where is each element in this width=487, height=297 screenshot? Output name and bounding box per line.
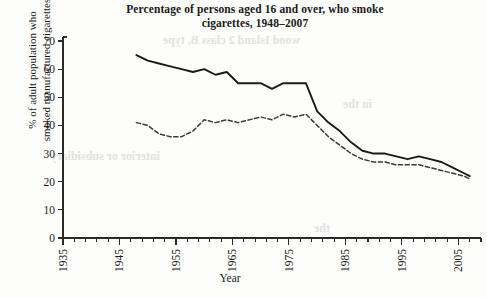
bleedthrough-text: the [313, 221, 330, 235]
y-axis-tick-label: 60 [44, 63, 56, 75]
y-axis-tick-label: 50 [44, 91, 56, 103]
x-axis-tick-label: 1995 [396, 249, 408, 272]
y-axis-tick-label: 40 [44, 119, 56, 131]
y-axis-tick-label: 10 [44, 204, 56, 216]
bleedthrough-text: wood Island 2 class B, type [162, 33, 300, 47]
x-axis-tick-label: 1965 [226, 249, 238, 272]
bleedthrough-text: in the [342, 97, 372, 111]
x-axis-tick-label: 1945 [113, 249, 125, 272]
series-layer [136, 55, 469, 179]
y-axis-tick-label: 0 [49, 232, 55, 244]
plot-area: wood Island 2 class B, typein theinterio… [0, 0, 487, 297]
x-axis-tick-label: 1975 [283, 249, 295, 272]
y-axis-tick-label: 70 [44, 35, 56, 47]
chart-container: Percentage of persons aged 16 and over, … [0, 0, 487, 297]
page-bleedthrough-layer: wood Island 2 class B, typein theinterio… [50, 33, 372, 235]
x-axis-tick-label: 2005 [452, 249, 464, 272]
y-axis-tick-label: 20 [44, 176, 56, 188]
bleedthrough-text: interior or subsidiary [50, 149, 160, 163]
x-axis-tick-label: 1935 [57, 249, 69, 272]
series-line-women [136, 114, 469, 179]
x-axis-tick-label: 1985 [339, 249, 351, 272]
x-axis-tick-label: 1955 [170, 249, 182, 272]
y-axis-tick-label: 30 [44, 148, 56, 160]
